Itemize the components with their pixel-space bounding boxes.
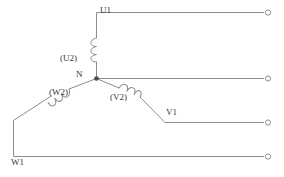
label-v2: (V2) xyxy=(110,93,127,102)
wiring-diagram: U1 (U2) N (W2) (V2) V1 W1 xyxy=(0,0,284,177)
label-v1: V1 xyxy=(166,108,177,117)
schematic-canvas xyxy=(0,0,284,177)
coil-u2 xyxy=(91,38,97,62)
terminal-v1-icon[interactable] xyxy=(265,120,270,125)
terminal-w1-icon[interactable] xyxy=(265,154,270,159)
label-n: N xyxy=(76,70,83,79)
label-u2: (U2) xyxy=(60,54,77,63)
wire-v-lower-diagonal xyxy=(140,97,165,123)
node-dot-n xyxy=(94,76,98,80)
wire-w-lower-diagonal xyxy=(14,96,53,121)
label-w1: W1 xyxy=(11,158,24,167)
terminal-n-icon[interactable] xyxy=(265,76,270,81)
terminal-u1-icon[interactable] xyxy=(265,10,270,15)
wire-w-upper-diagonal xyxy=(69,79,97,90)
label-u1: U1 xyxy=(100,6,111,15)
wire-v-upper-diagonal xyxy=(97,79,120,89)
label-w2: (W2) xyxy=(49,88,68,97)
